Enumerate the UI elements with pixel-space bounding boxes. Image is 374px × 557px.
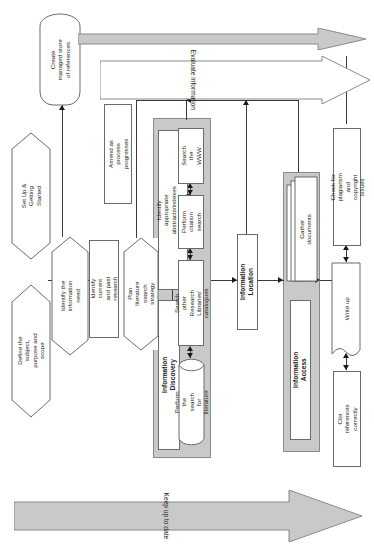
node-perform-search-for-literature[interactable]: Perform the search for literature — [178, 357, 205, 447]
node-define-subject-label: Define the subject, purpose and scope — [16, 332, 45, 370]
banner-evaluate-information: Evaluate information — [100, 56, 370, 104]
node-gather-documents[interactable]: Gather documents — [286, 176, 316, 286]
node-perform-citation-search-label: Perform citation search — [180, 211, 202, 233]
arrowhead-right — [278, 277, 283, 283]
arrowhead-up — [187, 346, 193, 351]
banner-keep-up-to-date: Keep up to date — [14, 490, 362, 542]
connector-amend-to-plan — [136, 100, 137, 260]
group-label-information-discovery-text: Information Discovery — [161, 357, 177, 393]
stage-setup-label: Set Up & Getting Started — [20, 177, 42, 215]
node-identify-current-past-research[interactable]: Identify current and past research — [89, 240, 119, 338]
node-search-www-label: Search the WWW — [180, 144, 202, 168]
stage-information-location[interactable]: Information Location — [237, 234, 258, 330]
node-identify-information-need-label: Identify the information need — [59, 278, 81, 314]
banner-references-flow — [78, 28, 366, 50]
node-write-up-label: Write up — [342, 298, 349, 321]
node-cite-references-correctly[interactable]: Cite references correctly — [333, 371, 361, 467]
node-plan-literature-search-strategy[interactable]: Plan literature search strategy — [124, 238, 158, 350]
node-perform-search-for-literature-label: Perform the search for literature — [173, 389, 210, 416]
node-amend-as-process-progresses[interactable]: Amend as process progresses — [104, 104, 132, 204]
group-label-information-access-text: Information Access — [293, 352, 309, 388]
connector-access-up — [298, 100, 299, 172]
node-search-www[interactable]: Search the WWW — [178, 128, 204, 184]
node-search-research-libraries-catalogues[interactable]: Search other Research Libraries' catalog… — [178, 260, 204, 346]
node-search-research-libraries-catalogues-label: Search other Research Libraries' catalog… — [173, 288, 210, 318]
node-perform-citation-search[interactable]: Perform citation search — [178, 195, 204, 249]
node-amend-as-process-progresses-label: Amend as process progresses — [107, 139, 129, 170]
node-create-managed-store[interactable]: Create managed store of references — [39, 14, 81, 106]
stage-information-location-label: Information Location — [240, 264, 256, 300]
node-write-up[interactable]: Write up — [331, 262, 361, 356]
node-gather-documents-label: Gather documents — [298, 214, 313, 244]
node-plan-literature-search-strategy-label: Plan literature search strategy — [126, 277, 155, 311]
node-check-plagiarism-copyright[interactable]: Check for plagiarism and copyright issue… — [333, 128, 361, 246]
node-identify-information-need[interactable]: Identify the information need — [52, 237, 88, 355]
node-identify-current-past-research-label: Identify current and past research — [89, 275, 118, 303]
group-label-information-discovery[interactable]: Information Discovery — [158, 300, 180, 450]
stage-setup-getting-started[interactable]: Set Up & Getting Started — [12, 133, 50, 259]
group-label-information-access[interactable]: Information Access — [290, 300, 311, 440]
flowchart-canvas: Set Up & Getting Started Define the subj… — [0, 0, 374, 557]
arrowhead-down — [343, 365, 349, 370]
node-define-subject[interactable]: Define the subject, purpose and scope — [12, 285, 50, 417]
node-check-plagiarism-copyright-label: Check for plagiarism and copyright issue… — [329, 173, 366, 201]
node-create-managed-store-label: Create managed store of references — [49, 39, 71, 80]
node-cite-references-correctly-label: Cite references correctly — [336, 404, 358, 433]
